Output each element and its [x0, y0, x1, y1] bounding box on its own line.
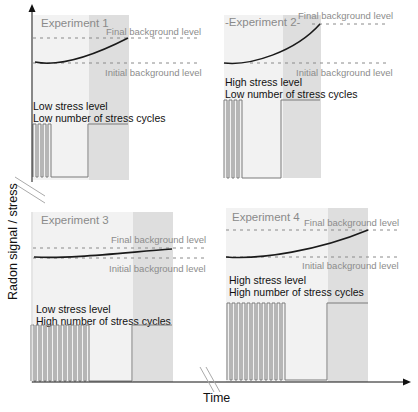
panel-experiment-4: Experiment 4 Final background level Init… — [226, 208, 400, 382]
stress-level-label: High stress level — [229, 274, 306, 286]
x-axis-break-mark — [200, 367, 214, 392]
initial-background-label: Initial background level — [296, 67, 393, 78]
experiment-title: Experiment 1 — [41, 17, 109, 29]
y-axis-label: Radon signal / stress — [6, 183, 20, 300]
stress-level-label: Low stress level — [33, 100, 108, 112]
final-background-label: Final background level — [106, 26, 201, 37]
panel-experiment-1: Experiment 1 Final background level Init… — [33, 15, 202, 180]
final-background-label: Final background level — [111, 234, 206, 245]
experiment-title: -Experiment 2- — [225, 16, 301, 28]
initial-background-label: Initial background level — [302, 260, 399, 271]
experiment-title: Experiment 4 — [232, 211, 300, 223]
stress-cycles-label: High number of stress cycles — [229, 286, 364, 298]
stress-cycles-label: Low number of stress cycles — [33, 112, 165, 124]
x-axis-arrow-icon — [403, 379, 411, 386]
final-background-label: Final background level — [304, 217, 399, 228]
initial-background-label: Initial background level — [105, 67, 202, 78]
stress-level-label: High stress level — [225, 76, 302, 88]
x-axis-label: Time — [203, 391, 230, 405]
panel-experiment-3: Experiment 3 Final background level Init… — [31, 212, 208, 382]
radon-experiments-diagram: Experiment 1 Final background level Init… — [0, 0, 418, 412]
y-axis-arrow-icon — [29, 4, 36, 12]
final-background-label: Final background level — [298, 10, 393, 21]
experiment-title: Experiment 3 — [41, 214, 109, 226]
stress-cycles-label: Low number of stress cycles — [225, 88, 357, 100]
stress-level-label: Low stress level — [36, 303, 111, 315]
x-axis-break-mark — [206, 367, 220, 392]
initial-background-label: Initial background level — [109, 263, 206, 274]
panel-experiment-2: -Experiment 2- Final background level In… — [224, 10, 393, 178]
